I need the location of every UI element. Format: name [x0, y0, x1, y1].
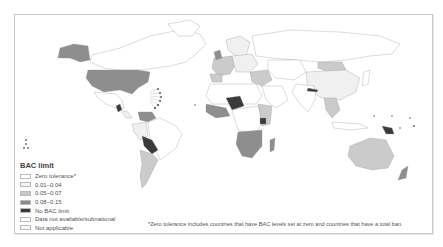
southern-africa: [236, 130, 262, 158]
west-africa: [206, 104, 230, 118]
australia: [348, 138, 394, 170]
north-america: [58, 20, 206, 118]
arabia: [262, 86, 288, 108]
swatch-005-007: [20, 191, 31, 196]
swatch-008-015: [20, 200, 31, 205]
legend-label: Data not available/subnational: [35, 216, 115, 222]
turkey-middle-east: [250, 70, 272, 86]
legend: BAC limit Zero tolerance* 0.01–0.04 0.05…: [20, 161, 115, 232]
legend-title: BAC limit: [20, 161, 115, 170]
india: [292, 84, 316, 112]
legend-item-008-015: 0.08–0.15: [20, 198, 115, 207]
swatch-not-applicable: [20, 225, 31, 230]
argentina-chile: [140, 150, 158, 188]
kazakhstan-central-asia: [268, 60, 306, 80]
russia: [252, 30, 400, 62]
japan: [362, 70, 370, 86]
legend-label: 0.01–0.04: [35, 182, 62, 188]
oceania: [332, 115, 415, 180]
legend-label: Not applicable: [35, 225, 73, 231]
legend-label: 0.05–0.07: [35, 190, 62, 196]
indonesia: [332, 122, 368, 130]
legend-item-005-007: 0.05–0.07: [20, 189, 115, 198]
legend-label: Zero tolerance*: [35, 173, 76, 179]
iberia: [210, 74, 222, 82]
south-america: [132, 112, 182, 188]
legend-item-data-not-available: Data not available/subnational: [20, 215, 115, 224]
legend-item-not-applicable: Not applicable: [20, 224, 115, 233]
swatch-zero-tolerance: [20, 174, 31, 179]
uganda: [260, 118, 266, 124]
legend-label: 0.08–0.15: [35, 199, 62, 205]
alaska: [58, 44, 90, 62]
brazil: [148, 118, 182, 160]
legend-item-no-bac-limit: No BAC limit: [20, 206, 115, 215]
central-america: [120, 110, 132, 118]
usa: [86, 70, 150, 94]
caribbean-callouts: [150, 88, 162, 109]
swatch-001-004: [20, 182, 31, 187]
new-zealand: [398, 166, 408, 180]
swatch-data-not-available: [20, 217, 31, 222]
central-europe: [232, 54, 258, 72]
asia: [252, 30, 400, 118]
legend-item-zero-tolerance: Zero tolerance*: [20, 172, 115, 181]
scandinavia: [226, 36, 250, 56]
swatch-no-bac-limit: [20, 208, 31, 213]
madagascar: [270, 138, 275, 152]
legend-item-001-004: 0.01–0.04: [20, 181, 115, 190]
papua-new-guinea: [382, 126, 394, 134]
footnote: *Zero tolerance includes countries that …: [148, 221, 403, 227]
legend-label: No BAC limit: [35, 208, 69, 214]
southeast-asia: [324, 98, 340, 118]
